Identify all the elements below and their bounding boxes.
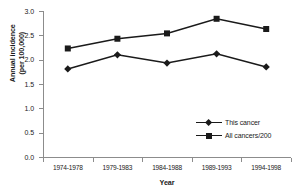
legend-item-all-cancers: All cancers/200 <box>196 129 271 142</box>
data-point-marker <box>263 26 269 32</box>
data-point-marker <box>114 51 121 58</box>
legend-key-diamond-icon <box>196 117 222 128</box>
legend-item-this-cancer: This cancer <box>196 116 271 129</box>
legend-label-all-cancers: All cancers/200 <box>225 132 271 139</box>
data-point-marker <box>64 65 71 72</box>
legend-key-square-icon <box>196 130 222 141</box>
chart-legend: This cancer All cancers/200 <box>196 116 271 142</box>
legend-label-this-cancer: This cancer <box>225 119 260 126</box>
chart-figure: Annual incidence (per 100,000) 0.00.51.0… <box>0 0 307 194</box>
data-point-marker <box>163 59 170 66</box>
x-axis-label: Year <box>43 178 291 187</box>
data-point-marker <box>214 16 220 22</box>
data-point-marker <box>114 36 120 42</box>
data-point-marker <box>213 50 220 57</box>
plot-area <box>0 0 307 194</box>
data-point-marker <box>164 30 170 36</box>
data-point-marker <box>263 63 270 70</box>
data-point-marker <box>65 45 71 51</box>
